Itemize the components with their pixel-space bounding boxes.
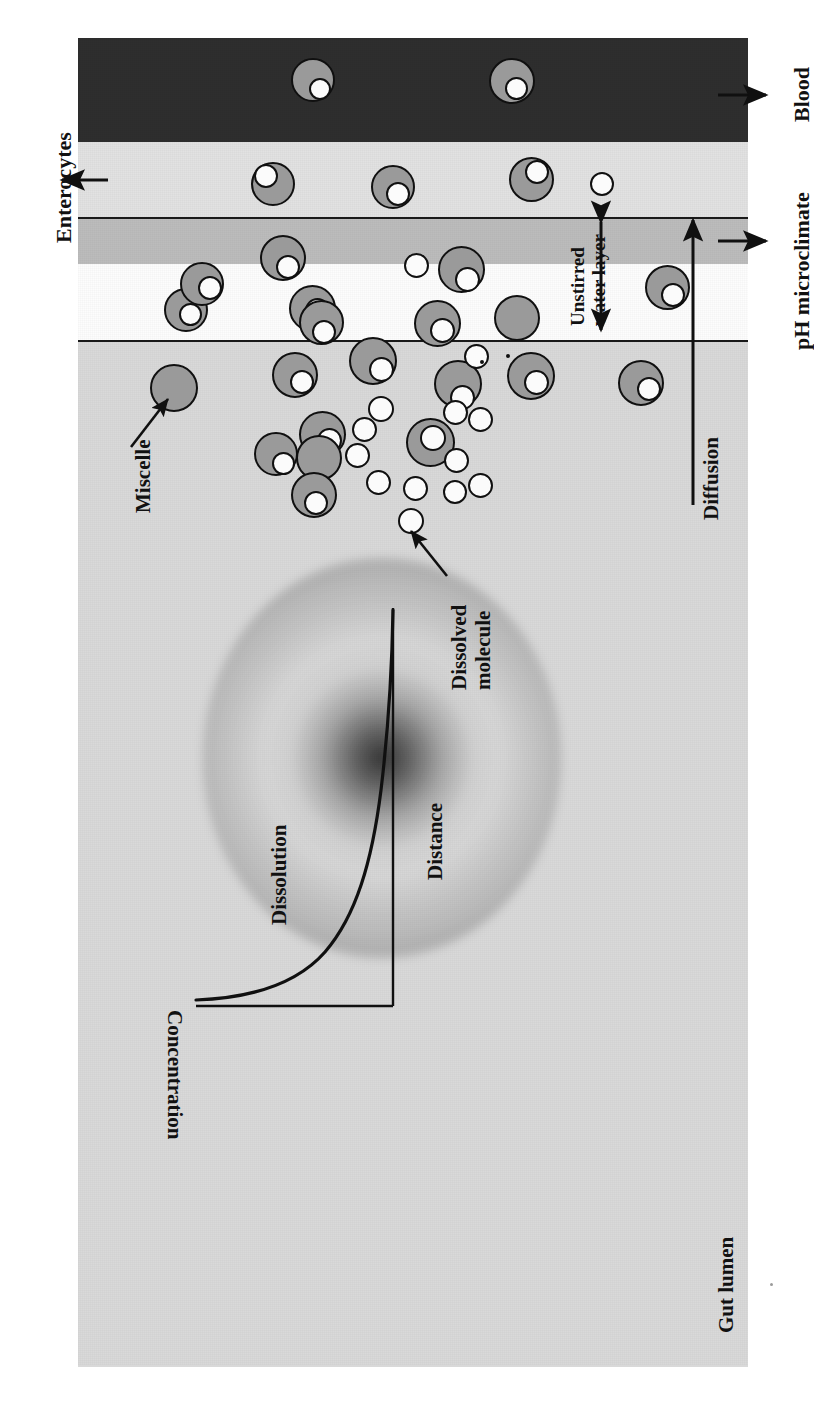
micelle-core	[661, 283, 685, 307]
label-unstirred-water-layer-line1: Unstirred	[568, 247, 588, 326]
dissolved-molecule	[464, 344, 489, 369]
dissolved-molecule	[345, 443, 370, 468]
label-ph-microclimate: pH microclimate	[790, 192, 813, 350]
label-unstirred-water-layer-line2: water layer	[589, 234, 609, 326]
dissolved-molecule	[443, 400, 468, 425]
scan-artifact	[770, 1283, 773, 1286]
micelle-core	[525, 160, 549, 184]
label-dissolved-molecule-line1: Dissolved	[448, 605, 470, 690]
micelle-core	[290, 370, 314, 394]
micelle-core	[272, 452, 295, 475]
micelle-core	[369, 357, 394, 382]
micelle-core	[420, 425, 446, 451]
label-miscelle: Miscelle	[132, 440, 154, 513]
label-blood: Blood	[790, 67, 813, 122]
dissolved-molecule	[398, 508, 424, 534]
dissolved-molecule	[352, 417, 377, 442]
label-enterocytes: Enterocytes	[52, 132, 75, 243]
micelle-core	[455, 267, 480, 292]
micelle-core	[309, 78, 331, 100]
label-distance: Distance	[424, 803, 446, 880]
dissolved-molecule	[403, 476, 428, 501]
dissolved-molecule	[368, 396, 394, 422]
micelle	[494, 295, 540, 341]
label-diffusion: Diffusion	[700, 437, 722, 520]
dissolved-molecule	[443, 480, 467, 504]
dissolved-molecule	[590, 172, 614, 196]
label-gut-lumen: Gut lumen	[715, 1237, 737, 1333]
micelle-core	[637, 377, 661, 401]
micelle-core	[312, 320, 336, 344]
micelle-core	[179, 303, 202, 326]
micelle-core	[304, 491, 328, 515]
micelle-core	[524, 370, 549, 395]
micelle-core	[386, 182, 410, 206]
label-concentration: Concentration	[164, 1010, 186, 1140]
label-dissolution: Dissolution	[268, 825, 290, 925]
micelle-core	[198, 276, 222, 300]
diagram-panel	[78, 38, 748, 1365]
dissolved-molecule	[480, 360, 484, 364]
micelle-core	[276, 255, 300, 279]
micelle-core	[505, 77, 528, 100]
micelle	[150, 364, 198, 412]
dissolved-molecule	[468, 473, 493, 498]
micelle	[506, 354, 510, 358]
drug-particle	[203, 558, 561, 958]
micelle-core	[254, 164, 278, 188]
label-dissolved-molecule-line2: molecule	[472, 611, 494, 690]
micelle-core	[430, 318, 455, 343]
dissolved-molecule	[404, 253, 429, 278]
dissolved-molecule	[366, 470, 391, 495]
dissolved-molecule	[468, 407, 493, 432]
layer-blood	[78, 38, 748, 142]
dissolved-molecule	[444, 448, 469, 473]
